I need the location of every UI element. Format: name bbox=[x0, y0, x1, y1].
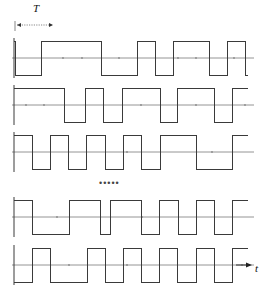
waveform-2-axis-dot bbox=[195, 104, 197, 106]
period-measure bbox=[15, 21, 53, 31]
waveform-1-axis-dot bbox=[177, 57, 179, 59]
square-wave-figure: T ••••• t bbox=[0, 0, 266, 296]
waveform-1-axis-dot bbox=[62, 57, 64, 59]
waveform-1-axis-dot bbox=[81, 57, 83, 59]
waveform-4-axis-dot bbox=[56, 216, 58, 218]
waveform-3 bbox=[12, 132, 254, 172]
waveform-5-axis-dot bbox=[126, 264, 128, 266]
time-axis-arrow bbox=[236, 262, 252, 267]
waveform-2-axis-dot bbox=[140, 104, 142, 106]
time-axis-label: t bbox=[255, 262, 258, 274]
waveform-plot bbox=[0, 0, 266, 296]
waveform-2-axis-dot bbox=[25, 104, 27, 106]
waveform-5-axis-dot bbox=[68, 264, 70, 266]
continuation-ellipsis: ••••• bbox=[99, 178, 120, 188]
period-label: T bbox=[33, 2, 39, 14]
waveform-4 bbox=[12, 197, 254, 237]
waveform-2-axis-dot bbox=[43, 104, 45, 106]
waveform-3-axis-dot bbox=[126, 151, 128, 153]
waveform-3-axis-dot bbox=[211, 151, 213, 153]
period-arrow-right bbox=[49, 23, 53, 27]
waveform-1-axis-dot bbox=[118, 57, 120, 59]
time-axis-arrowhead bbox=[246, 262, 252, 267]
waveform-2-axis-dot bbox=[244, 104, 246, 106]
waveform-1-axis-dot bbox=[195, 57, 197, 59]
waveform-1-axis-dot bbox=[233, 57, 235, 59]
waveform-1 bbox=[12, 38, 254, 78]
waveform-2 bbox=[12, 85, 254, 125]
waveform-5 bbox=[12, 245, 254, 285]
period-arrow-left bbox=[17, 23, 21, 27]
